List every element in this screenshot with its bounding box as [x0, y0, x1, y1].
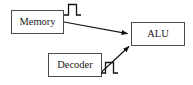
node-decoder[interactable]: Decoder [49, 54, 102, 77]
node-alu[interactable]: ALU [132, 23, 185, 46]
edge-memory-to-alu [64, 22, 128, 34]
edge-memory-to-alu-line [64, 22, 128, 34]
node-memory-label: Memory [19, 16, 56, 27]
square-pulse-icon [64, 5, 81, 16]
diagram-canvas: Memory Decoder ALU [0, 0, 193, 85]
block-diagram: Memory Decoder ALU [0, 0, 193, 85]
node-alu-label: ALU [147, 28, 169, 39]
node-memory[interactable]: Memory [12, 11, 64, 34]
node-decoder-label: Decoder [57, 59, 93, 70]
memory-signal-pulse-icon [64, 5, 81, 16]
